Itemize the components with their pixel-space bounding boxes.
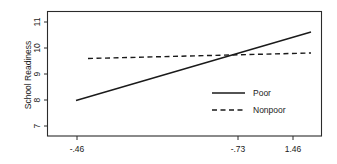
x-tick-label-2: -.73 — [231, 144, 246, 154]
chart-figure: School Readiness 11 10 9 8 7 -.46 -.73 1… — [0, 0, 337, 164]
line-chart: School Readiness 11 10 9 8 7 -.46 -.73 1… — [0, 0, 337, 164]
x-tick-label-3: 1.46 — [285, 144, 302, 154]
y-tick-label-9: 9 — [32, 71, 42, 76]
y-tick-label-8: 8 — [32, 97, 42, 102]
chart-legend: Poor Nonpoor — [212, 88, 286, 115]
x-tick-label-1: -.46 — [70, 144, 85, 154]
legend-label-nonpoor: Nonpoor — [253, 105, 286, 115]
y-tick-label-11: 11 — [32, 17, 42, 26]
y-tick-label-10: 10 — [32, 43, 42, 53]
series-line-nonpoor — [88, 53, 311, 59]
plot-frame — [48, 12, 322, 137]
y-tick-label-7: 7 — [32, 123, 42, 128]
series-line-poor — [76, 32, 311, 101]
legend-label-poor: Poor — [253, 88, 271, 98]
